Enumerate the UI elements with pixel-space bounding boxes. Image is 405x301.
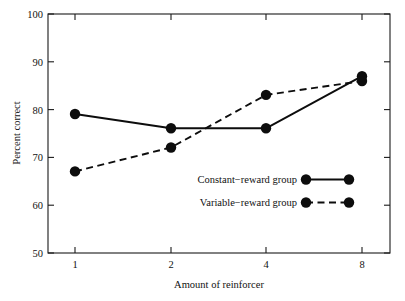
x-tick-label-2: 2 [168,259,173,270]
legend-label-constant-reward: Constant−reward group [197,174,297,185]
x-axis-ticks [75,247,362,253]
y-tick-label-80: 80 [33,105,44,116]
legend-swatch-dot-variable-right [344,197,354,207]
line-chart: 100 90 80 70 60 50 1 2 4 8 Amount of rei… [0,0,405,301]
series-line-variable-reward [75,81,362,171]
x-tick-label-1: 1 [72,259,77,270]
chart-legend: Constant−reward group Variable−reward gr… [197,174,354,208]
y-axis-title: Percent correct [11,101,22,164]
y-tick-label-70: 70 [33,152,44,163]
legend-swatch-dot-constant-left [301,174,311,184]
legend-label-variable-reward: Variable−reward group [200,197,297,208]
chart-figure: 100 90 80 70 60 50 1 2 4 8 Amount of rei… [0,0,405,301]
x-axis-title: Amount of reinforcer [174,279,264,290]
legend-swatch-dot-constant-right [344,174,354,184]
x-tick-label-8: 8 [359,259,364,270]
y-tick-label-100: 100 [27,9,43,20]
y-tick-label-50: 50 [33,248,44,259]
legend-swatch-dot-variable-left [301,197,311,207]
x-axis-ticks-top [75,14,362,20]
series-markers-constant-reward [70,71,367,134]
y-axis-ticks [48,14,54,253]
plot-frame [48,14,390,253]
y-axis-ticks-right [384,14,390,253]
y-tick-label-90: 90 [33,57,44,68]
y-tick-label-60: 60 [33,200,44,211]
x-tick-label-4: 4 [263,259,269,270]
